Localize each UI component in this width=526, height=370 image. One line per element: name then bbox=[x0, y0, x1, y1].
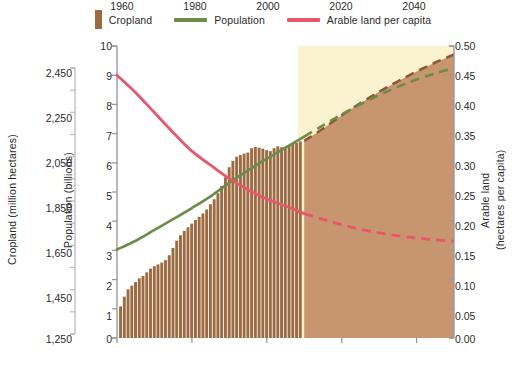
cropland-bar bbox=[295, 143, 298, 338]
cropland-bar bbox=[172, 248, 175, 338]
cropland-bar bbox=[276, 146, 279, 338]
cropland-bar bbox=[179, 235, 182, 338]
cropland-bar bbox=[160, 263, 163, 338]
cropland-bar bbox=[198, 217, 201, 338]
cropland-bar bbox=[261, 149, 264, 338]
cropland-bar bbox=[250, 148, 253, 338]
cropland-bars bbox=[119, 141, 302, 338]
cropland-bar bbox=[246, 153, 249, 338]
cropland-bar bbox=[183, 231, 186, 338]
cropland-bar bbox=[213, 199, 216, 338]
cropland-bar bbox=[157, 265, 160, 338]
cropland-bar bbox=[254, 147, 257, 338]
cropland-bar bbox=[153, 266, 156, 338]
cropland-bar bbox=[168, 255, 171, 338]
cropland-bar bbox=[130, 286, 133, 338]
cropland-bar bbox=[243, 154, 246, 338]
cropland-bar bbox=[228, 167, 231, 338]
cropland-bar bbox=[164, 260, 167, 338]
cropland-bar bbox=[190, 224, 193, 338]
cropland-bar bbox=[273, 148, 276, 338]
cropland-bar bbox=[127, 289, 130, 338]
cropland-bar bbox=[216, 193, 219, 338]
cropland-bar bbox=[220, 186, 223, 338]
cropland-bar bbox=[175, 241, 178, 338]
cropland-bar bbox=[239, 155, 242, 338]
cropland-bar bbox=[138, 278, 141, 338]
cropland-bar bbox=[231, 161, 234, 338]
cropland-bar bbox=[142, 276, 145, 338]
cropland-bar bbox=[134, 282, 137, 338]
cropland-bar bbox=[187, 227, 190, 338]
cropland-bar bbox=[265, 150, 268, 338]
cropland-bar bbox=[299, 141, 302, 338]
cropland-bar bbox=[288, 146, 291, 338]
cropland-bar bbox=[280, 147, 283, 338]
cropland-bar bbox=[209, 204, 212, 338]
cropland-bar bbox=[224, 177, 227, 338]
cropland-bar bbox=[258, 148, 261, 338]
cropland-bar bbox=[194, 220, 197, 338]
cropland-bar bbox=[123, 297, 126, 338]
cropland-bar bbox=[201, 213, 204, 338]
cropland-bar bbox=[205, 210, 208, 338]
plot-area bbox=[0, 0, 526, 370]
cropland-bar bbox=[145, 272, 148, 338]
arable-line bbox=[117, 75, 304, 213]
cropland-bar bbox=[119, 306, 122, 338]
cropland-bar bbox=[269, 151, 272, 338]
cropland-bar bbox=[284, 148, 287, 338]
cropland-bar bbox=[291, 144, 294, 338]
cropland-bar bbox=[149, 269, 152, 338]
chart-container: Cropland Population Arable land per capi… bbox=[0, 0, 526, 370]
